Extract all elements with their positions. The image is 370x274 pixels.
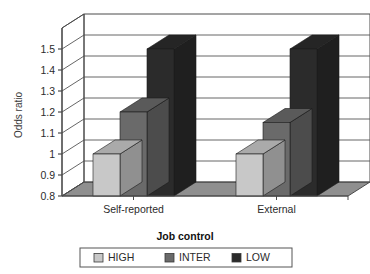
y-tick-label: 1.1: [40, 127, 55, 139]
y-tick-label: 1.3: [40, 85, 55, 97]
legend-swatch-inter: [165, 254, 174, 263]
odds-ratio-3d-bar-chart: 0.80.911.11.21.31.41.5 Self-reportedExte…: [0, 0, 370, 274]
x-category-label: Self-reported: [103, 203, 164, 215]
legend-label: INTER: [179, 251, 211, 263]
legend: HIGHINTERLOW: [80, 248, 292, 267]
legend-label: HIGH: [108, 251, 134, 263]
x-category-label: External: [257, 203, 296, 215]
y-tick-label: 0.8: [40, 190, 55, 202]
y-tick-label: 1.5: [40, 43, 55, 55]
legend-swatch-low: [232, 254, 241, 263]
chart-container: 0.80.911.11.21.31.41.5 Self-reportedExte…: [0, 0, 370, 274]
y-tick-label: 0.9: [40, 169, 55, 181]
y-tick-label: 1: [49, 148, 55, 160]
y-tick-label: 1.4: [40, 64, 55, 76]
x-axis-title: Job control: [156, 230, 213, 242]
legend-swatch-high: [94, 254, 103, 263]
y-tick-label: 1.2: [40, 106, 55, 118]
legend-label: LOW: [246, 251, 270, 263]
y-axis-title: Odds ratio: [13, 91, 24, 138]
